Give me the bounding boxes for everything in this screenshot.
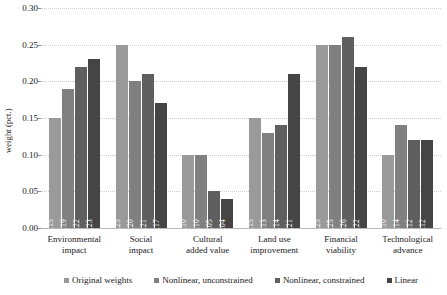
bar[interactable]: 0.15 — [49, 118, 61, 228]
y-axis-tick-label: 0.25 — [10, 40, 38, 49]
bar-group: 0.150.130.140.21 — [241, 8, 308, 228]
legend-label: Linear — [395, 275, 418, 285]
x-axis-label-line: viability — [308, 245, 375, 256]
bar[interactable]: 0.23 — [88, 59, 100, 228]
bar[interactable]: 0.12 — [408, 140, 420, 228]
legend-label: Original weights — [72, 275, 132, 285]
bar[interactable]: 0.04 — [221, 199, 233, 228]
bar-chart: weight (pct.) 0.300.250.200.150.100.050.… — [0, 0, 447, 295]
x-axis-label-line: Technological — [374, 234, 441, 245]
legend-item[interactable]: Nonlinear, constrained — [275, 275, 365, 285]
bar[interactable]: 0.20 — [129, 81, 141, 228]
legend-item[interactable]: Original weights — [64, 275, 132, 285]
x-axis-category-label: Land useimprovement — [241, 231, 308, 265]
legend-label: Nonlinear, constrained — [283, 275, 365, 285]
bar[interactable]: 0.25 — [316, 45, 328, 228]
x-axis-label-line: impact — [108, 245, 175, 256]
bar[interactable]: 0.10 — [182, 155, 194, 228]
x-axis-category-label: Socialimpact — [108, 231, 175, 265]
bar[interactable]: 0.10 — [382, 155, 394, 228]
chart-legend: Original weightsNonlinear, unconstrained… — [41, 271, 441, 289]
bar[interactable]: 0.15 — [249, 118, 261, 228]
bar[interactable]: 0.22 — [75, 67, 87, 228]
legend-color-swatch-icon — [387, 278, 392, 283]
bar[interactable]: 0.13 — [262, 133, 274, 228]
bar-group: 0.100.100.050.04 — [174, 8, 241, 228]
y-axis-tick-label: 0.15 — [10, 114, 38, 123]
y-axis-tick-labels: 0.300.250.200.150.100.050.00 — [10, 8, 38, 228]
bar[interactable]: 0.26 — [342, 37, 354, 228]
x-axis-category-label: Culturaladded value — [174, 231, 241, 265]
bar[interactable]: 0.10 — [195, 155, 207, 228]
bar-groups: 0.150.190.220.230.250.200.210.170.100.10… — [41, 8, 441, 228]
x-axis-label-line: Social — [108, 234, 175, 245]
bar[interactable]: 0.19 — [62, 89, 74, 228]
y-axis-tickmark — [38, 228, 41, 229]
legend-item[interactable]: Linear — [387, 275, 418, 285]
bar[interactable]: 0.14 — [275, 125, 287, 228]
y-axis-tick-label: 0.00 — [10, 224, 38, 233]
legend-color-swatch-icon — [275, 278, 280, 283]
y-axis-tick-label: 0.05 — [10, 187, 38, 196]
x-axis-label-line: advance — [374, 245, 441, 256]
y-axis-tick-label: 0.30 — [10, 4, 38, 13]
x-axis-label-line: impact — [41, 245, 108, 256]
bar[interactable]: 0.17 — [155, 103, 167, 228]
bar[interactable]: 0.22 — [355, 67, 367, 228]
x-axis-category-label: Technologicaladvance — [374, 231, 441, 265]
x-axis-label-line: Environmental — [41, 234, 108, 245]
legend-color-swatch-icon — [64, 278, 69, 283]
x-axis-label-line: improvement — [241, 245, 308, 256]
bar[interactable]: 0.25 — [329, 45, 341, 228]
x-axis-category-label: Financialviability — [308, 231, 375, 265]
legend-color-swatch-icon — [154, 278, 159, 283]
bar[interactable]: 0.14 — [395, 125, 407, 228]
legend-label: Nonlinear, unconstrained — [162, 275, 253, 285]
bar-group: 0.150.190.220.23 — [41, 8, 108, 228]
x-axis-category-labels: EnvironmentalimpactSocialimpactCulturala… — [41, 231, 441, 265]
x-axis-label-line: Financial — [308, 234, 375, 245]
bar-group: 0.250.200.210.17 — [108, 8, 175, 228]
bar[interactable]: 0.21 — [142, 74, 154, 228]
x-axis-label-line: added value — [174, 245, 241, 256]
x-axis-category-label: Environmentalimpact — [41, 231, 108, 265]
y-axis-tick-label: 0.10 — [10, 150, 38, 159]
x-axis-label-line: Cultural — [174, 234, 241, 245]
y-axis-tick-label: 0.20 — [10, 77, 38, 86]
bar[interactable]: 0.12 — [421, 140, 433, 228]
x-axis-label-line: Land use — [241, 234, 308, 245]
bar-group: 0.100.140.120.12 — [374, 8, 441, 228]
plot-area: 0.150.190.220.230.250.200.210.170.100.10… — [41, 8, 441, 228]
bar[interactable]: 0.25 — [116, 45, 128, 228]
bar[interactable]: 0.21 — [288, 74, 300, 228]
bar-group: 0.250.250.260.22 — [308, 8, 375, 228]
legend-item[interactable]: Nonlinear, unconstrained — [154, 275, 253, 285]
